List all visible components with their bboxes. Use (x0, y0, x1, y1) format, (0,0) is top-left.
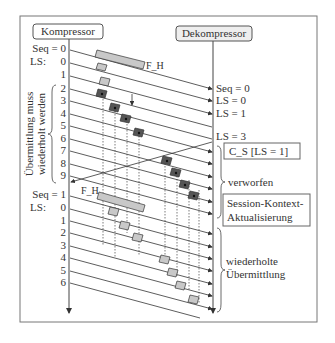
compressor-label: Kompressor (41, 25, 95, 37)
svg-text:1: 1 (61, 68, 67, 80)
svg-text:6: 6 (61, 132, 67, 144)
discarded-label: verworfen (228, 176, 274, 188)
svg-text:LS:: LS: (30, 55, 46, 67)
svg-text:5: 5 (61, 264, 67, 276)
svg-text:1: 1 (61, 214, 67, 226)
svg-text:Seq = 0: Seq = 0 (216, 82, 250, 94)
svg-text:9: 9 (61, 169, 67, 181)
svg-text:LS = 3: LS = 3 (216, 130, 247, 142)
svg-text:Session-Kontext-: Session-Kontext- (227, 197, 304, 209)
left-brace (48, 85, 56, 183)
svg-text:4: 4 (61, 251, 67, 263)
svg-text:8: 8 (61, 157, 67, 169)
fh-label-2: F_H (81, 185, 99, 196)
svg-text:wiederholt werden: wiederholt werden (35, 92, 47, 175)
receiver-labels: Seq = 0 LS = 0 LS = 1 LS = 3 (216, 82, 250, 142)
retransmission-brace (217, 228, 225, 312)
svg-text:2: 2 (61, 226, 67, 238)
svg-text:LS:: LS: (30, 201, 46, 213)
svg-text:5: 5 (61, 119, 67, 131)
svg-text:7: 7 (61, 144, 67, 156)
retransmission-label-1: wiederholte (226, 255, 278, 267)
packets-second (97, 192, 199, 304)
svg-text:6: 6 (61, 276, 67, 288)
protocol-diagram: Kompressor Dekompressor Seq = 0 LS: 0 1 … (0, 0, 335, 343)
svg-text:Seq = 1: Seq = 1 (32, 188, 66, 200)
brace-label-left: Übermittlung muss wiederholt werden (23, 92, 47, 177)
svg-text:Aktualisierung: Aktualisierung (227, 211, 293, 223)
cs-label: C_S [LS = 1] (229, 145, 288, 157)
svg-text:2: 2 (61, 82, 67, 94)
svg-text:3: 3 (61, 239, 67, 251)
fh-label-1: F_H (146, 60, 164, 71)
svg-text:Übermittlung muss: Übermittlung muss (23, 92, 35, 177)
svg-text:LS = 0: LS = 0 (216, 94, 247, 106)
svg-text:4: 4 (61, 107, 67, 119)
decompressor-label: Dekompressor (182, 27, 246, 39)
svg-text:LS = 1: LS = 1 (216, 107, 246, 119)
svg-text:3: 3 (61, 94, 67, 106)
retransmission-label-2: Übermittlung (226, 268, 286, 280)
svg-text:0: 0 (61, 201, 67, 213)
svg-text:Seq = 0: Seq = 0 (32, 42, 66, 54)
message-lines-first (70, 50, 212, 318)
svg-text:0: 0 (61, 55, 67, 67)
